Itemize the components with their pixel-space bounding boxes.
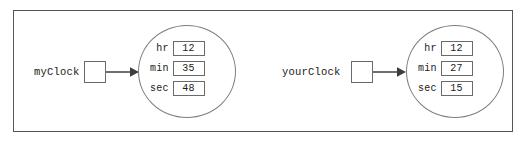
pointer-arrow-yourclock	[373, 64, 409, 80]
field-list-yourclock: hr 12 min 27 sec 15	[418, 41, 473, 96]
field-name-min: min	[418, 61, 441, 76]
variable-label-yourclock: yourClock	[282, 66, 341, 78]
field-row: min 27	[418, 61, 473, 76]
field-name-sec: sec	[418, 81, 441, 96]
field-row: hr 12	[418, 41, 473, 56]
field-value-hr[interactable]: 12	[441, 41, 473, 56]
field-value-min[interactable]: 27	[441, 61, 473, 76]
pointer-box-yourclock[interactable]	[351, 61, 373, 83]
field-row: sec 15	[418, 81, 473, 96]
field-value-sec[interactable]: 15	[441, 81, 473, 96]
field-name-hr: hr	[424, 41, 440, 56]
diagram-canvas: myClock hr 12 min 35 sec 48 yourClock	[0, 0, 527, 143]
variable-group-yourclock: yourClock hr 12 min 27 sec 15	[0, 0, 527, 143]
